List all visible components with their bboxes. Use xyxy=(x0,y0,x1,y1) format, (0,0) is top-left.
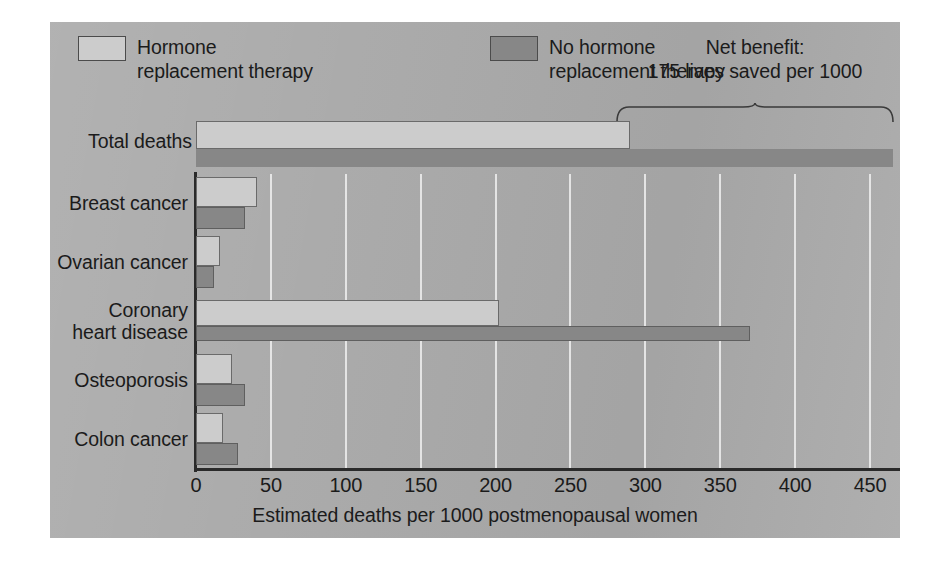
bar-row-colon-cancer: Colon cancer xyxy=(196,409,900,468)
x-axis-label: Estimated deaths per 1000 postmenopausal… xyxy=(50,504,900,527)
x-tick-50: 50 xyxy=(236,474,306,497)
bar-no-hrt-ovarian-cancer xyxy=(196,266,214,288)
bar-hrt-breast-cancer xyxy=(196,177,257,207)
bar-hrt-ovarian-cancer xyxy=(196,236,220,266)
x-tick-150: 150 xyxy=(386,474,456,497)
bar-no-hrt-coronary-heart-disease xyxy=(196,326,750,341)
x-tick-300: 300 xyxy=(610,474,680,497)
category-label-osteoporosis: Osteoporosis xyxy=(0,369,188,391)
x-tick-450: 450 xyxy=(835,474,905,497)
x-tick-400: 400 xyxy=(760,474,830,497)
light-gray-swatch xyxy=(78,36,126,61)
bar-hrt-coronary-heart-disease xyxy=(196,300,499,326)
bar-row-osteoporosis: Osteoporosis xyxy=(196,350,900,409)
summary-row-total-deaths: Total deaths xyxy=(50,118,900,170)
dark-gray-swatch xyxy=(490,36,538,61)
bar-no-hrt-colon-cancer xyxy=(196,443,238,465)
legend-label-hrt: Hormone replacement therapy xyxy=(137,36,313,83)
x-tick-0: 0 xyxy=(161,474,231,497)
category-label-ovarian-cancer: Ovarian cancer xyxy=(0,251,188,273)
bar-hrt-osteoporosis xyxy=(196,354,232,384)
category-label-breast-cancer: Breast cancer xyxy=(0,192,188,214)
bar-no-hrt-breast-cancer xyxy=(196,207,245,229)
summary-row-label: Total deaths xyxy=(0,130,192,153)
bar-no-hrt-osteoporosis xyxy=(196,384,245,406)
category-label-colon-cancer: Colon cancer xyxy=(0,428,188,450)
bar-hrt-total-deaths xyxy=(196,121,630,149)
category-label-coronary-heart-disease: Coronary heart disease xyxy=(0,299,188,343)
bar-row-coronary-heart-disease: Coronary heart disease xyxy=(196,292,900,351)
x-tick-350: 350 xyxy=(685,474,755,497)
plot-area: Breast cancerOvarian cancerCoronary hear… xyxy=(196,174,900,468)
legend-item-hrt: Hormone replacement therapy xyxy=(78,36,313,83)
net-benefit-annotation: Net benefit: 175 lives saved per 1000 xyxy=(610,36,900,83)
bar-no-hrt-total-deaths xyxy=(196,149,893,167)
x-axis-line xyxy=(194,468,900,471)
x-tick-200: 200 xyxy=(461,474,531,497)
x-tick-100: 100 xyxy=(311,474,381,497)
summary-row-bars xyxy=(196,121,900,167)
bar-row-ovarian-cancer: Ovarian cancer xyxy=(196,233,900,292)
x-tick-250: 250 xyxy=(535,474,605,497)
bar-row-breast-cancer: Breast cancer xyxy=(196,174,900,233)
chart-figure: Hormone replacement therapy No hormone r… xyxy=(50,22,900,538)
bar-hrt-colon-cancer xyxy=(196,413,223,443)
x-axis-ticks: 050100150200250300350400450 xyxy=(196,474,900,502)
